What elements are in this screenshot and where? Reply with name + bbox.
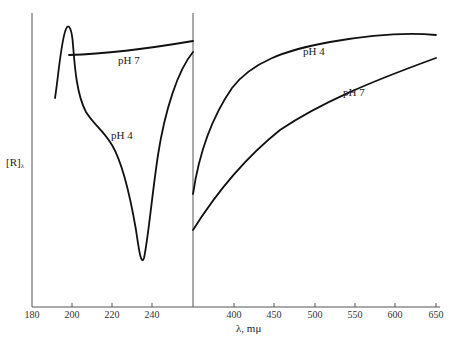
tick-label-450: 450: [267, 309, 282, 320]
label-right-ph4: pH 4: [303, 45, 325, 57]
tick-label-500: 500: [308, 309, 323, 320]
tick-label-650: 650: [429, 309, 444, 320]
curve-left-ph7: [69, 41, 193, 55]
tick-label-600: 600: [388, 309, 403, 320]
tick-label-200: 200: [65, 309, 80, 320]
left-ticks: [72, 303, 152, 307]
right-ticks: [234, 303, 436, 307]
label-right-ph7: pH 7: [343, 86, 365, 98]
label-left-ph7: pH 7: [118, 54, 140, 66]
y-axis-label-sub: λ: [21, 162, 25, 170]
tick-label-220: 220: [105, 309, 120, 320]
label-left-ph4: pH 4: [111, 129, 133, 141]
tick-label-240: 240: [145, 309, 160, 320]
tick-label-180: 180: [25, 309, 40, 320]
y-axis-label: [R]λ: [6, 156, 25, 170]
tick-label-550: 550: [348, 309, 363, 320]
chart-canvas: 180 200 220 240 400 450 500 550 600 650 …: [0, 0, 453, 339]
curve-right-ph4: [193, 34, 436, 194]
tick-label-400: 400: [227, 309, 242, 320]
curve-right-ph7: [193, 58, 436, 230]
x-axis-label: λ, mμ: [236, 322, 261, 334]
y-axis-label-main: [R]: [6, 156, 21, 168]
